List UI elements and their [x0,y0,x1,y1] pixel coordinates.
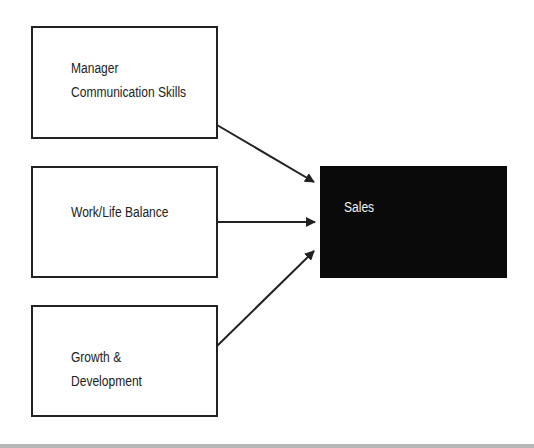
arrow-growth-to-sales [217,251,314,346]
arrow-manager-to-sales [217,125,314,182]
connector-arrows [0,0,534,448]
bottom-divider [0,444,534,448]
